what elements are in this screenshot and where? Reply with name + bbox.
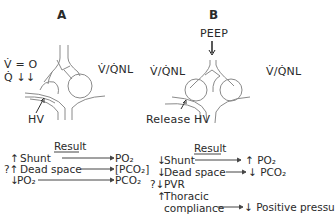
panel-b-release-hv-label: Release HV — [146, 113, 210, 126]
panel-a-ventilation-label: V̇ = O — [4, 58, 37, 71]
panel-b-letter: B — [209, 8, 218, 22]
panel-b-row-1-result: ↑ PO₂ — [245, 154, 276, 166]
panel-b-vq-right-label: V̇/Q̇NL — [266, 65, 301, 78]
panel-b-row-2-result: ↓ PCO₂ — [248, 166, 286, 178]
panel-b-row-3-prefix: ?↓ — [150, 178, 164, 190]
panel-a-airway — [25, 45, 105, 120]
panel-b-row-4-result: ↓ Positive pressu — [244, 201, 335, 213]
panel-b-row-4-cause-line2: compliance — [164, 202, 224, 214]
panel-a-vq-label: V̇/Q̇NL — [98, 63, 133, 76]
panel-a-result-title: Result — [54, 140, 86, 152]
panel-b-row-3-cause: PVR — [164, 178, 185, 190]
panel-b-row-2-cause: Dead space — [164, 166, 226, 178]
panel-a-row-3-cause: PO₂ — [17, 174, 36, 186]
panel-a-perfusion-label: Q̇ ↓↓ — [4, 71, 35, 84]
panel-b-peep-label: PEEP — [200, 27, 228, 40]
panel-b-vq-left-label: V̇/Q̇NL — [150, 65, 185, 78]
panel-a-hv-label: HV — [28, 113, 44, 126]
panel-a-letter: A — [57, 8, 66, 22]
panel-b-result-title: Result — [194, 142, 226, 154]
panel-b-row-1-cause: Shunt — [164, 154, 195, 166]
panel-a-row-3-result: PCO₂ — [115, 174, 141, 186]
panel-b-row-4-cause: Thoracic — [164, 190, 209, 202]
